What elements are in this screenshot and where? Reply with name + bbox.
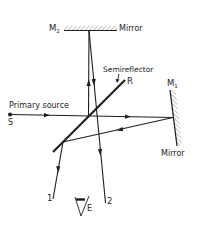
beam-1-label: 1 bbox=[47, 193, 52, 203]
r-label: R bbox=[127, 76, 133, 86]
m2-mirror-label: Mirror bbox=[119, 24, 143, 33]
mirror-m2-hatching bbox=[64, 26, 117, 30]
michelson-interferometer-diagram: M2 Mirror M1 Mirror Semireflector R Prim… bbox=[0, 0, 200, 233]
arrow-left-icon bbox=[116, 127, 123, 131]
beam-semireflector-to-m2 bbox=[89, 31, 90, 116]
m2-label: M2 bbox=[49, 23, 60, 34]
semireflector-label: Semireflector bbox=[103, 65, 154, 74]
arrow-down-icon bbox=[56, 166, 60, 173]
arrow-up-icon bbox=[87, 79, 91, 86]
mirror-m2 bbox=[64, 26, 117, 31]
primary-source-label: Primary source bbox=[9, 101, 69, 110]
semireflector-pointer-arrow bbox=[116, 74, 120, 83]
m1-label: M1 bbox=[167, 78, 178, 89]
beam-2-label: 2 bbox=[107, 196, 112, 206]
arrow-right-icon bbox=[44, 113, 50, 117]
s-label: S bbox=[8, 118, 13, 127]
arrow-right-icon bbox=[125, 115, 131, 119]
arrow-down-icon bbox=[98, 149, 102, 156]
m1-mirror-label: Mirror bbox=[161, 149, 185, 158]
eye-label: E bbox=[87, 204, 92, 213]
